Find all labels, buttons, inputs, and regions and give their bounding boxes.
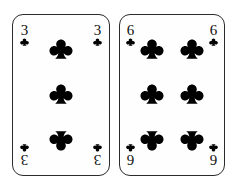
playing-card-six-of-clubs[interactable]: 6 6 xyxy=(119,14,225,176)
club-icon xyxy=(209,38,218,47)
corner-index-top-left: 3 xyxy=(20,23,29,47)
corner-index-bottom-left: 6 xyxy=(126,143,135,167)
corner-index-top-right: 3 xyxy=(93,23,102,47)
club-icon xyxy=(126,143,135,152)
club-pip xyxy=(49,38,73,62)
card-face: 6 6 xyxy=(120,15,224,175)
corner-index-bottom-right: 3 xyxy=(93,143,102,167)
club-pip xyxy=(180,38,204,62)
rank-label: 3 xyxy=(21,152,29,167)
rank-label: 3 xyxy=(94,152,102,167)
club-pip xyxy=(140,128,164,152)
card-face: 3 3 xyxy=(13,15,109,175)
club-pip xyxy=(49,128,73,152)
rank-label: 3 xyxy=(94,23,102,38)
club-icon xyxy=(20,143,29,152)
club-pip xyxy=(180,128,204,152)
club-pip xyxy=(180,83,204,107)
rank-label: 6 xyxy=(127,23,135,38)
card-table-background: 3 3 xyxy=(0,0,238,189)
corner-index-top-left: 6 xyxy=(126,23,135,47)
playing-card-three-of-clubs[interactable]: 3 3 xyxy=(12,14,110,176)
corner-index-bottom-left: 3 xyxy=(20,143,29,167)
club-icon xyxy=(20,38,29,47)
club-icon xyxy=(126,38,135,47)
club-icon xyxy=(93,38,102,47)
corner-index-bottom-right: 6 xyxy=(209,143,218,167)
rank-label: 3 xyxy=(21,23,29,38)
corner-index-top-right: 6 xyxy=(209,23,218,47)
club-pip xyxy=(140,38,164,62)
rank-label: 6 xyxy=(127,152,135,167)
club-icon xyxy=(93,143,102,152)
club-icon xyxy=(209,143,218,152)
club-pip xyxy=(49,83,73,107)
rank-label: 6 xyxy=(210,23,218,38)
rank-label: 6 xyxy=(210,152,218,167)
club-pip xyxy=(140,83,164,107)
